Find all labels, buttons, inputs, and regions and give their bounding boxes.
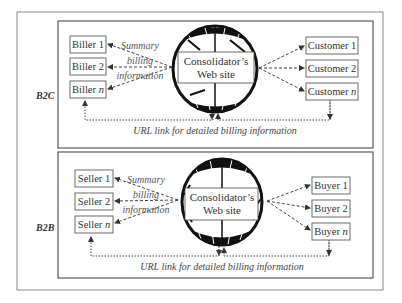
svg-text:Biller 1: Biller 1 (72, 39, 104, 50)
summary-label-3: information (116, 70, 163, 81)
svg-text:Buyer 2: Buyer 2 (314, 203, 348, 214)
node-seller-n: Seller n (75, 216, 113, 233)
globe-icon (182, 158, 262, 248)
svg-text:Buyer n: Buyer n (314, 226, 348, 237)
hub-label-line2: Web site (197, 68, 235, 80)
svg-text:Customer 1: Customer 1 (308, 40, 357, 51)
section-label-b2b: B2B (35, 222, 55, 233)
node-seller-2: Seller 2 (75, 193, 113, 210)
node-biller-n: Biller n (70, 81, 106, 98)
node-biller-2: Biller 2 (70, 58, 106, 75)
node-seller-1: Seller 1 (75, 170, 113, 187)
url-link-caption: URL link for detailed billing informatio… (133, 125, 296, 136)
node-customer-1: Customer 1 (306, 37, 358, 54)
hub-label-line2: Web site (203, 204, 241, 216)
svg-text:Customer n: Customer n (308, 86, 357, 97)
svg-text:Seller 1: Seller 1 (78, 173, 110, 184)
node-customer-n: Customer n (306, 83, 358, 100)
url-link-caption: URL link for detailed billing informatio… (140, 261, 303, 272)
summary-label-2: billing (133, 189, 159, 200)
node-buyer-n: Buyer n (312, 223, 350, 240)
billing-consolidator-diagram: B2C Consolidator’s Web site Biller 1 Bil… (0, 0, 402, 303)
svg-text:Biller 2: Biller 2 (72, 61, 104, 72)
summary-label-1: Summary (121, 40, 159, 51)
svg-text:Seller 2: Seller 2 (78, 196, 110, 207)
svg-text:Biller n: Biller n (72, 84, 104, 95)
arrows-right (267, 185, 310, 230)
svg-text:Seller n: Seller n (78, 219, 110, 230)
node-buyer-1: Buyer 1 (312, 177, 350, 194)
node-buyer-2: Buyer 2 (312, 200, 350, 217)
section-label-b2c: B2C (35, 90, 55, 101)
section-b2c: B2C Consolidator’s Web site Biller 1 Bil… (35, 21, 373, 148)
section-b2b: B2B Consolidator’s Web site Seller 1 Sel… (35, 152, 373, 278)
svg-text:Customer 2: Customer 2 (308, 63, 357, 74)
hub-label-line1: Consolidator’s (190, 191, 255, 203)
node-biller-1: Biller 1 (70, 36, 106, 53)
summary-label-3: information (122, 204, 169, 215)
node-customer-2: Customer 2 (306, 60, 358, 77)
hub-label-line1: Consolidator’s (184, 55, 249, 67)
svg-text:Buyer 1: Buyer 1 (314, 180, 348, 191)
summary-label-1: Summary (127, 174, 165, 185)
arrows-right (259, 46, 304, 91)
summary-label-2: billing (127, 55, 153, 66)
